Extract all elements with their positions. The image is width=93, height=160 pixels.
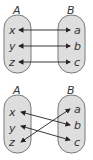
set-a-title: A xyxy=(12,4,21,17)
element-z: z xyxy=(8,56,15,69)
element-x: x xyxy=(8,106,16,119)
element-c: c xyxy=(74,56,80,69)
element-a: a xyxy=(74,103,81,116)
set-b: B a b c xyxy=(58,4,85,73)
mapping-diagram-top: A x y z B a b c xyxy=(0,0,93,80)
element-a: a xyxy=(74,24,81,37)
element-y: y xyxy=(8,122,16,135)
element-b: b xyxy=(74,119,81,132)
element-b: b xyxy=(74,40,81,53)
set-b: B a b c xyxy=(58,84,85,153)
set-b-title: B xyxy=(67,84,75,97)
set-b-title: B xyxy=(67,4,75,17)
mapping-diagram-bottom: A x y z B a b c xyxy=(0,80,93,160)
set-a: A x y z xyxy=(4,4,31,73)
element-x: x xyxy=(8,24,16,37)
element-z: z xyxy=(8,136,15,149)
element-y: y xyxy=(8,40,16,53)
element-c: c xyxy=(74,136,80,149)
set-a-title: A xyxy=(12,84,21,97)
set-a: A x y z xyxy=(4,84,31,153)
